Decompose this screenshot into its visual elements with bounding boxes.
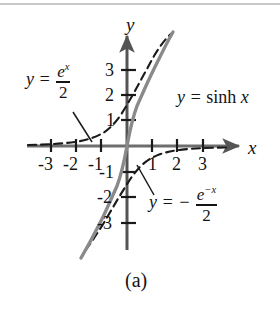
y-tick-label-3: 3: [105, 61, 114, 79]
fraction-neg-exp-over-two: e−x 2: [195, 186, 218, 224]
numerator-base: e: [57, 62, 65, 81]
neg-numerator-exponent: −x: [204, 184, 216, 195]
neg-fraction-denominator: 2: [195, 206, 218, 224]
y-tick-label-minus-3: -3: [97, 214, 112, 232]
fraction-exp-over-two: ex 2: [55, 63, 71, 101]
label-sinh-func: sinh: [206, 87, 236, 107]
x-axis-label: x: [248, 138, 256, 157]
x-tick-label-minus-1: -1: [88, 155, 103, 173]
label-exp-over-two-lhs: y =: [26, 69, 51, 89]
label-sinh-lhs: y =: [177, 87, 202, 107]
figure-caption: (a): [125, 270, 147, 290]
x-tick-label-minus-3: -3: [38, 155, 53, 173]
fraction-numerator: ex: [55, 63, 71, 81]
y-tick-label-2: 2: [105, 86, 114, 104]
x-tick-label-3: 3: [198, 155, 207, 173]
y-axis-label: y: [126, 15, 134, 34]
figure-container: y x 3 2 1 -1 -2 -3 -3 -2 -1 1 2 3 y = ex…: [0, 0, 280, 315]
label-exp-over-two: y = ex 2: [26, 62, 71, 100]
x-tick-label-2: 2: [172, 155, 181, 173]
y-tick-label-1: 1: [106, 111, 115, 129]
numerator-exponent: x: [65, 61, 70, 72]
label-sinh-arg: x: [241, 87, 249, 107]
x-tick-label-1: 1: [148, 155, 157, 173]
y-tick-label-minus-2: -2: [97, 188, 112, 206]
leader-line-exp-over-two: [73, 112, 92, 142]
neg-fraction-numerator: e−x: [195, 186, 218, 204]
label-neg-exp-over-two: y = − e−x 2: [149, 185, 218, 223]
fraction-denominator: 2: [55, 83, 71, 101]
x-tick-label-minus-2: -2: [63, 155, 78, 173]
label-neg-exp-lhs: y = −: [149, 192, 190, 212]
label-sinh: y = sinh x: [177, 88, 249, 106]
